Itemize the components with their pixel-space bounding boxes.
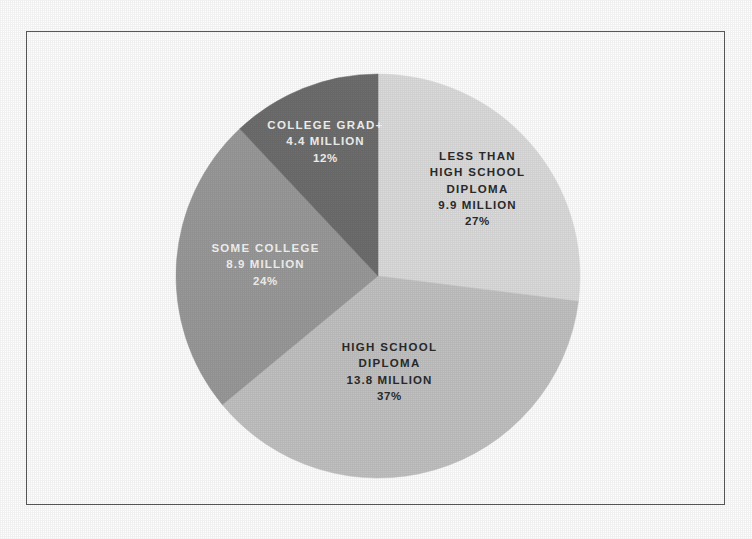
slice-percent: 12% [238, 150, 413, 166]
slice-label-some-college: SOME COLLEGE 8.9 MILLION 24% [178, 240, 353, 289]
slice-label-line: HIGH SCHOOL [297, 339, 482, 355]
slice-value: 8.9 MILLION [178, 256, 353, 272]
slice-percent: 27% [385, 213, 570, 229]
slice-label-line: SOME COLLEGE [178, 240, 353, 256]
slice-label-line: DIPLOMA [297, 355, 482, 371]
slice-label-line: COLLEGE GRAD+ [238, 117, 413, 133]
slice-label-high-school-diploma: HIGH SCHOOL DIPLOMA 13.8 MILLION 37% [297, 339, 482, 404]
slice-label-line: DIPLOMA [385, 181, 570, 197]
slice-value: 4.4 MILLION [238, 133, 413, 149]
slice-label-college-grad-plus: COLLEGE GRAD+ 4.4 MILLION 12% [238, 117, 413, 166]
slice-value: 13.8 MILLION [297, 372, 482, 388]
slice-label-line: HIGH SCHOOL [385, 164, 570, 180]
figure-frame [26, 31, 725, 505]
slice-percent: 24% [178, 273, 353, 289]
slice-percent: 37% [297, 388, 482, 404]
slice-value: 9.9 MILLION [385, 197, 570, 213]
